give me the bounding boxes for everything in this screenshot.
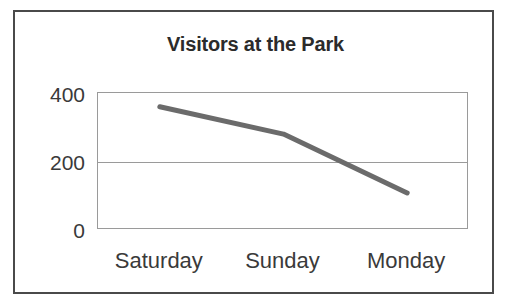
chart-title: Visitors at the Park xyxy=(15,33,496,56)
x-axis-labels: Saturday Sunday Monday xyxy=(97,250,468,280)
figure-frame: Visitors at the Park 400 200 0 Saturday … xyxy=(13,10,494,294)
y-axis-tick-200: 200 xyxy=(19,152,85,173)
line-series-visitors xyxy=(98,93,469,230)
x-axis-tick-monday: Monday xyxy=(344,250,468,280)
y-axis-tick-400: 400 xyxy=(19,84,85,105)
x-axis-tick-saturday: Saturday xyxy=(97,250,221,280)
y-axis-tick-0: 0 xyxy=(19,220,85,241)
x-axis-tick-sunday: Sunday xyxy=(221,250,345,280)
plot-area xyxy=(97,92,468,229)
data-line-path xyxy=(160,107,407,193)
